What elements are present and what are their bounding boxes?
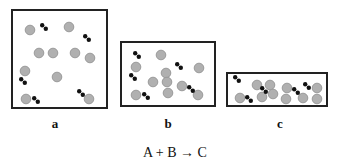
panel-label-a: a [52, 116, 59, 131]
atom-b-icon [177, 81, 187, 91]
atom-b-icon [148, 77, 158, 87]
atom-b-icon [70, 48, 80, 58]
atom-b-icon [281, 94, 291, 104]
molecule-a-icon [233, 75, 241, 83]
molecule-a-icon [40, 23, 48, 31]
molecule-a-icon [142, 92, 150, 100]
panel-a [12, 10, 107, 108]
atom-b-icon [194, 63, 204, 73]
molecule-a-icon [303, 82, 311, 90]
atom-b-icon [131, 62, 141, 72]
atom-b-icon [34, 48, 44, 58]
molecule-a-icon [245, 95, 253, 103]
atom-b-icon [163, 88, 173, 98]
atom-b-icon [48, 48, 58, 58]
molecule-a-icon [133, 51, 141, 59]
atom-b-icon [85, 53, 95, 63]
atom-b-icon [268, 89, 278, 99]
atom-b-icon [131, 90, 141, 100]
atom-b-icon [21, 94, 31, 104]
atom-b-icon [298, 93, 308, 103]
molecule-a-icon [19, 77, 27, 85]
panel-b [121, 42, 215, 106]
panel-c [227, 73, 327, 106]
atom-b-icon [312, 94, 322, 104]
atom-b-icon [20, 66, 30, 76]
molecule-a-icon [129, 73, 137, 81]
atom-b-icon [156, 50, 166, 60]
molecule-a-icon [175, 62, 183, 70]
atom-b-icon [162, 77, 172, 87]
atom-b-icon [25, 25, 35, 35]
atom-b-icon [235, 93, 245, 103]
atom-b-icon [161, 68, 171, 78]
molecule-a-icon [83, 34, 91, 42]
panel-label-b: b [164, 116, 171, 131]
atom-b-icon [52, 72, 62, 82]
atom-b-icon [265, 80, 275, 90]
atom-b-icon [84, 94, 94, 104]
molecule-a-icon [77, 89, 85, 97]
panel-label-c: c [277, 116, 283, 131]
atom-b-icon [64, 22, 74, 32]
molecule-a-icon [187, 85, 195, 93]
molecule-a-icon [32, 96, 40, 104]
molecule-a-icon [292, 87, 300, 95]
reaction-equation: A + B → C [143, 145, 207, 160]
atom-b-icon [312, 83, 322, 93]
reaction-diagram: a b c A + B → C [0, 0, 338, 166]
atom-b-icon [282, 83, 292, 93]
